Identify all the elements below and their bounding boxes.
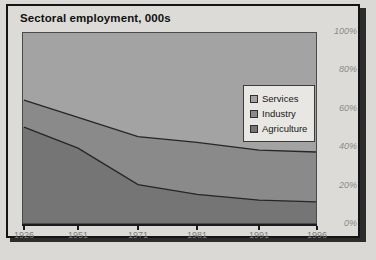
chart-legend: Services Industry Agriculture — [243, 85, 315, 142]
legend-label-industry: Industry — [262, 108, 296, 119]
y-axis-tick-20: 20% — [339, 180, 357, 190]
legend-item-services[interactable]: Services — [250, 91, 307, 106]
y-axis-labels: 100%80%60%40%20%0% — [321, 26, 359, 232]
y-axis-tick-0: 0% — [344, 218, 357, 228]
x-axis-tick-label-1926: 1926 — [14, 230, 34, 240]
agriculture-swatch — [250, 125, 258, 133]
x-axis-tick-label-1951: 1951 — [68, 230, 88, 240]
x-axis-tick-label-1981: 1981 — [187, 230, 207, 240]
industry-swatch — [250, 110, 258, 118]
legend-item-agriculture[interactable]: Agriculture — [250, 121, 307, 136]
y-axis-tick-100: 100% — [334, 26, 357, 36]
x-axis-tick-label-1991: 1991 — [249, 230, 269, 240]
x-axis-tick-label-1996: 1996 — [307, 230, 327, 240]
services-swatch — [250, 95, 258, 103]
x-axis-line — [22, 224, 317, 226]
legend-label-services: Services — [262, 93, 298, 104]
legend-label-agriculture: Agriculture — [262, 123, 307, 134]
y-axis-tick-80: 80% — [339, 64, 357, 74]
y-axis-tick-40: 40% — [339, 141, 357, 151]
chart-title: Sectoral employment, 000s — [20, 12, 171, 24]
y-axis-tick-60: 60% — [339, 103, 357, 113]
chart-frame: Sectoral employment, 000s — [6, 4, 360, 238]
legend-item-industry[interactable]: Industry — [250, 106, 307, 121]
x-axis-tick-label-1971: 1971 — [128, 230, 148, 240]
plot-wrapper: Services Industry Agriculture — [22, 32, 317, 224]
